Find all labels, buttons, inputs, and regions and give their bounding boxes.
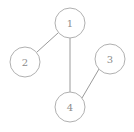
graph-node-3[interactable]: 3 <box>95 44 125 74</box>
graph-node-4[interactable]: 4 <box>55 92 85 122</box>
graph-edges-group <box>37 33 99 98</box>
graph-node-label-4: 4 <box>67 102 73 113</box>
graph-node-2[interactable]: 2 <box>10 47 40 77</box>
graph-node-label-3: 3 <box>107 54 113 65</box>
graph-node-label-2: 2 <box>22 57 28 68</box>
graph-nodes-group: 1234 <box>10 8 125 122</box>
graph-node-1[interactable]: 1 <box>55 8 85 38</box>
graph-edge-3-4 <box>82 69 99 98</box>
graph-edge-1-2 <box>37 33 58 52</box>
graph-diagram: 1234 <box>0 0 134 132</box>
graph-node-label-1: 1 <box>67 18 73 29</box>
